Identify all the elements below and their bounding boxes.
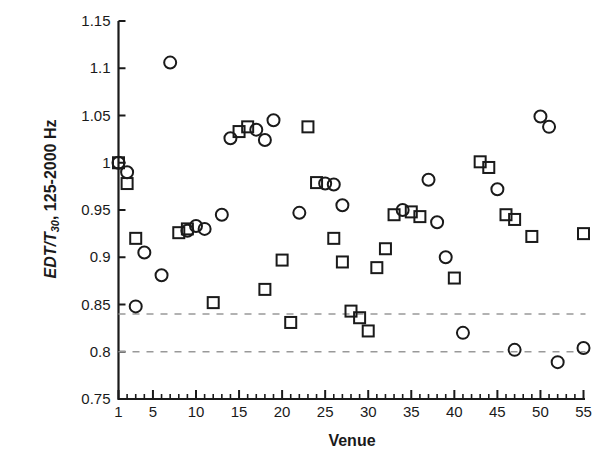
data-point-circle <box>431 216 443 228</box>
data-markers <box>113 57 590 369</box>
data-point-circle <box>491 183 503 195</box>
data-point-circle <box>543 121 555 133</box>
data-point-circle <box>336 199 348 211</box>
data-point-square <box>277 255 288 266</box>
data-point-circle <box>552 356 564 368</box>
data-point-circle <box>509 344 521 356</box>
data-point-circle <box>138 247 150 259</box>
data-point-circle <box>534 110 546 122</box>
data-point-circle <box>130 300 142 312</box>
data-point-square <box>328 233 339 244</box>
data-point-circle <box>293 207 305 219</box>
data-point-circle <box>216 209 228 221</box>
data-point-circle <box>457 327 469 339</box>
data-point-square <box>285 317 296 328</box>
scatter-plot-figure: EDT/T30, 125-2000 Hz Venue 0.750.80.850.… <box>0 0 610 470</box>
data-point-circle <box>250 124 262 136</box>
reference-lines <box>119 314 586 352</box>
data-point-square <box>578 228 589 239</box>
data-point-circle <box>328 178 340 190</box>
data-point-circle <box>259 134 271 146</box>
data-point-square <box>363 325 374 336</box>
data-point-square <box>259 284 270 295</box>
data-point-square <box>302 121 313 132</box>
data-point-circle <box>440 251 452 263</box>
data-point-circle <box>164 57 176 69</box>
data-point-circle <box>156 269 168 281</box>
plot-canvas <box>0 0 610 470</box>
data-point-square <box>380 243 391 254</box>
data-point-square <box>449 273 460 284</box>
data-point-circle <box>224 132 236 144</box>
data-point-square <box>371 262 382 273</box>
data-point-circle <box>268 114 280 126</box>
data-point-circle <box>423 174 435 186</box>
data-point-square <box>130 233 141 244</box>
data-point-square <box>337 256 348 267</box>
data-point-square <box>526 231 537 242</box>
data-point-square <box>122 178 133 189</box>
data-point-square <box>208 297 219 308</box>
